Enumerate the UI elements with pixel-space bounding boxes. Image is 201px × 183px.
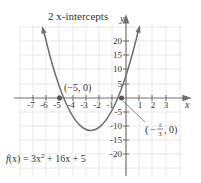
x-tick-labels: -7 -6 -5 -4 -3 -2 -1 1 2 3 bbox=[27, 100, 169, 110]
x-tick-label: 1 bbox=[138, 100, 143, 110]
x-tick-label: 2 bbox=[151, 100, 156, 110]
y-tick-label: -5 bbox=[115, 107, 123, 117]
x-intercept-point-left bbox=[57, 96, 62, 101]
graph: -7 -6 -5 -4 -3 -2 -1 1 2 3 20 15 10 5 -5… bbox=[0, 0, 201, 183]
x-tick-label: -6 bbox=[40, 100, 48, 110]
x-tick-label: -2 bbox=[93, 100, 101, 110]
svg-text:, 0): , 0) bbox=[164, 124, 177, 136]
y-tick-label: 15 bbox=[113, 50, 123, 60]
svg-text:(: ( bbox=[145, 123, 149, 136]
chart-title: 2 x-intercepts bbox=[48, 10, 108, 22]
function-label: f(x) = 3x2 + 16x + 5 bbox=[6, 152, 86, 165]
y-tick-label: -15 bbox=[110, 135, 122, 145]
svg-text:3: 3 bbox=[158, 130, 162, 138]
x-tick-label: -5 bbox=[53, 100, 61, 110]
point-label-left: (−5, 0) bbox=[64, 82, 91, 94]
svg-text:1: 1 bbox=[158, 121, 162, 129]
y-tick-label: -10 bbox=[110, 121, 122, 131]
point-label-right: ( − 1 3 , 0) bbox=[145, 121, 177, 138]
x-tick-label: -3 bbox=[80, 100, 88, 110]
parabola-curve bbox=[44, 28, 140, 131]
curve-right-arrow-icon bbox=[136, 25, 141, 33]
y-tick-label: 10 bbox=[113, 64, 123, 74]
x-tick-label: 3 bbox=[164, 100, 169, 110]
x-axis-label: x bbox=[184, 99, 190, 110]
svg-text:−: − bbox=[150, 124, 156, 135]
x-intercept-point-right bbox=[119, 96, 124, 101]
y-tick-label: 20 bbox=[113, 36, 123, 46]
y-tick-label: -20 bbox=[110, 149, 122, 159]
x-tick-label: -7 bbox=[27, 100, 35, 110]
y-axis-label: y bbox=[119, 13, 125, 24]
